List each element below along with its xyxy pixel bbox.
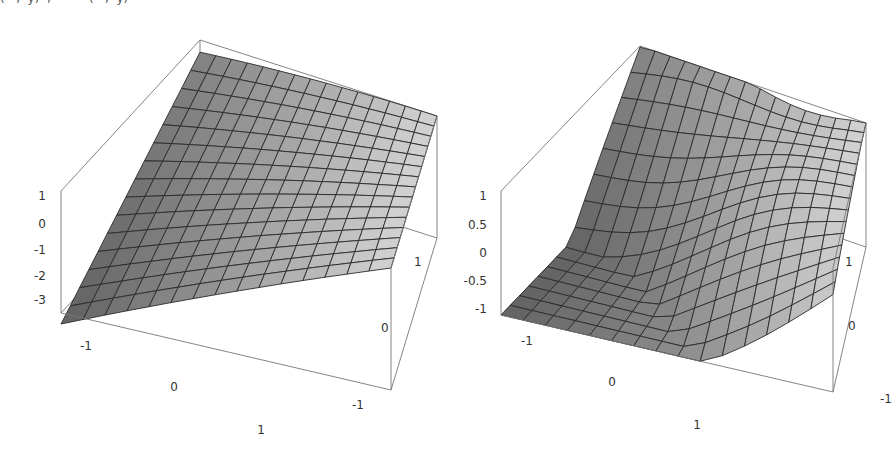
- y-axis-tick-label: 0: [848, 319, 856, 333]
- x-axis-tick-label: 0: [608, 375, 616, 389]
- z-axis-tick-label: -1: [475, 302, 487, 316]
- surface-mesh: [501, 47, 866, 361]
- z-axis-tick-label: 1: [38, 189, 46, 203]
- x-axis-tick-label: -1: [521, 334, 533, 348]
- surface-mesh: [61, 52, 437, 324]
- z-axis-tick-label: 1: [479, 189, 487, 203]
- y-axis-tick-label: -1: [352, 398, 364, 412]
- surface-plot-left: 10-1-2-3-101-101: [0, 0, 446, 465]
- z-axis-tick-label: 0.5: [468, 218, 487, 232]
- x-axis-tick-label: 1: [693, 418, 701, 432]
- z-axis-tick-label: -2: [34, 269, 46, 283]
- z-axis-tick-label: 0: [38, 217, 46, 231]
- x-axis-tick-label: -1: [80, 339, 92, 353]
- z-axis-tick-label: -3: [34, 293, 46, 307]
- z-axis-tick-label: 0: [479, 246, 487, 260]
- z-axis-tick-label: -0.5: [464, 274, 487, 288]
- x-axis-tick-label: 1: [257, 423, 265, 437]
- surface-plot-left-canvas: 10-1-2-3-101-101: [0, 0, 446, 465]
- surface-plot-right: 10.50-0.5-1-101-101: [446, 0, 892, 465]
- y-axis-tick-label: 1: [414, 255, 422, 269]
- y-axis-tick-label: 1: [845, 255, 853, 269]
- surface-plot-right-canvas: 10.50-0.5-1-101-101: [446, 0, 892, 465]
- y-axis-tick-label: -1: [880, 392, 892, 406]
- y-axis-tick-label: 0: [381, 321, 389, 335]
- z-axis-tick-label: -1: [34, 243, 46, 257]
- x-axis-tick-label: 0: [170, 380, 178, 394]
